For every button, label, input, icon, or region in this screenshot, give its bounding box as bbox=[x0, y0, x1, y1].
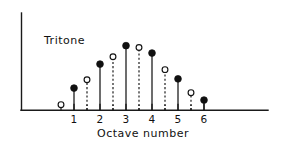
data-point-open bbox=[110, 54, 116, 60]
axes bbox=[21, 13, 268, 110]
data-point-filled bbox=[149, 50, 156, 57]
x-axis-tick-labels: 123456 bbox=[71, 113, 208, 125]
data-point-filled bbox=[97, 61, 104, 68]
x-axis-tick-label: 1 bbox=[71, 113, 78, 125]
data-markers bbox=[58, 42, 207, 107]
stems bbox=[61, 49, 204, 111]
data-point-open bbox=[162, 67, 168, 73]
data-point-filled bbox=[71, 85, 78, 92]
x-axis-title: Octave number bbox=[97, 127, 189, 140]
data-point-filled bbox=[201, 97, 208, 104]
x-axis-tick-label: 2 bbox=[97, 113, 104, 125]
data-point-filled bbox=[123, 42, 130, 49]
tritone-octave-figure: 123456 Octave number Tritone bbox=[0, 0, 287, 146]
plot-area: 123456 Octave number Tritone bbox=[0, 0, 287, 146]
tritone-annotation-label: Tritone bbox=[43, 34, 85, 47]
data-point-filled bbox=[175, 75, 182, 82]
data-point-open bbox=[136, 45, 142, 51]
x-axis-tick-label: 4 bbox=[149, 113, 156, 125]
data-point-open bbox=[84, 77, 90, 83]
x-axis-tick-label: 3 bbox=[123, 113, 130, 125]
x-axis-tick-label: 6 bbox=[201, 113, 208, 125]
data-point-open bbox=[58, 102, 64, 108]
x-axis-tick-label: 5 bbox=[175, 113, 182, 125]
data-point-open bbox=[188, 90, 194, 96]
